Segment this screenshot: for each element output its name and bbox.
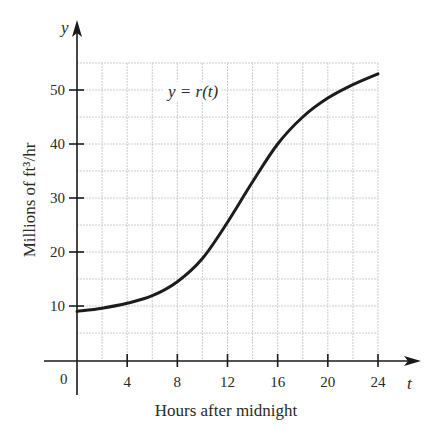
- x-tick-label: 12: [220, 374, 235, 390]
- y-tick-label: 40: [50, 136, 65, 152]
- x-tick-label: 4: [123, 374, 131, 390]
- line-chart: 48121620241020304050 y = r(t) y t 0 Hour…: [0, 0, 434, 437]
- x-tick-label: 24: [371, 374, 387, 390]
- y-tick-label: 10: [50, 298, 65, 314]
- y-tick-label: 20: [50, 244, 65, 260]
- y-axis-title: Millions of ft³/hr: [20, 142, 39, 257]
- x-axis-symbol: t: [407, 374, 413, 393]
- origin-label: 0: [60, 371, 68, 387]
- axes: [44, 20, 421, 395]
- y-tick-label: 30: [50, 190, 65, 206]
- chart-container: 48121620241020304050 y = r(t) y t 0 Hour…: [0, 0, 434, 437]
- x-axis-title: Hours after midnight: [155, 401, 298, 420]
- curve-label: y = r(t): [166, 82, 219, 101]
- x-tick-label: 20: [320, 374, 335, 390]
- y-axis-symbol: y: [59, 18, 69, 37]
- y-tick-label: 50: [50, 82, 65, 98]
- grid: [77, 63, 378, 360]
- x-tick-label: 8: [174, 374, 182, 390]
- x-tick-label: 16: [270, 374, 286, 390]
